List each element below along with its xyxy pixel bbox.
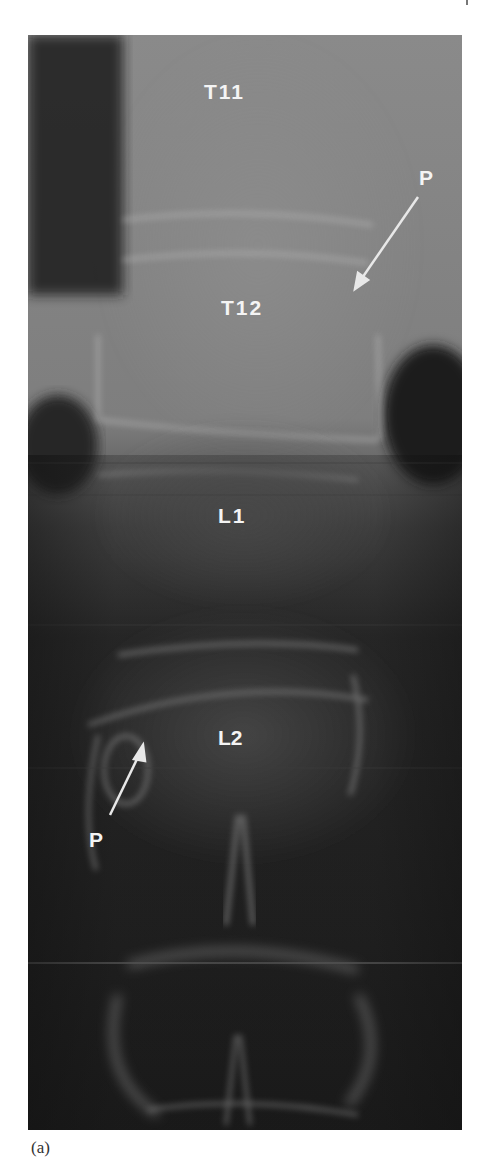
vertebra-label-t11: T11 bbox=[204, 81, 245, 102]
vertebra-label-l1: L1 bbox=[218, 505, 247, 526]
vertebra-label-t12: T12 bbox=[221, 297, 263, 318]
xray-image bbox=[28, 35, 462, 1130]
figure-caption: (a) bbox=[31, 1138, 50, 1158]
pedicle-label-upper: P bbox=[419, 167, 435, 188]
page-corner-mark bbox=[466, 0, 468, 5]
pedicle-label-lower: P bbox=[89, 829, 105, 850]
xray-figure: T11 T12 L1 L2 P P bbox=[28, 35, 462, 1130]
vertebra-label-l2: L2 bbox=[218, 727, 243, 748]
